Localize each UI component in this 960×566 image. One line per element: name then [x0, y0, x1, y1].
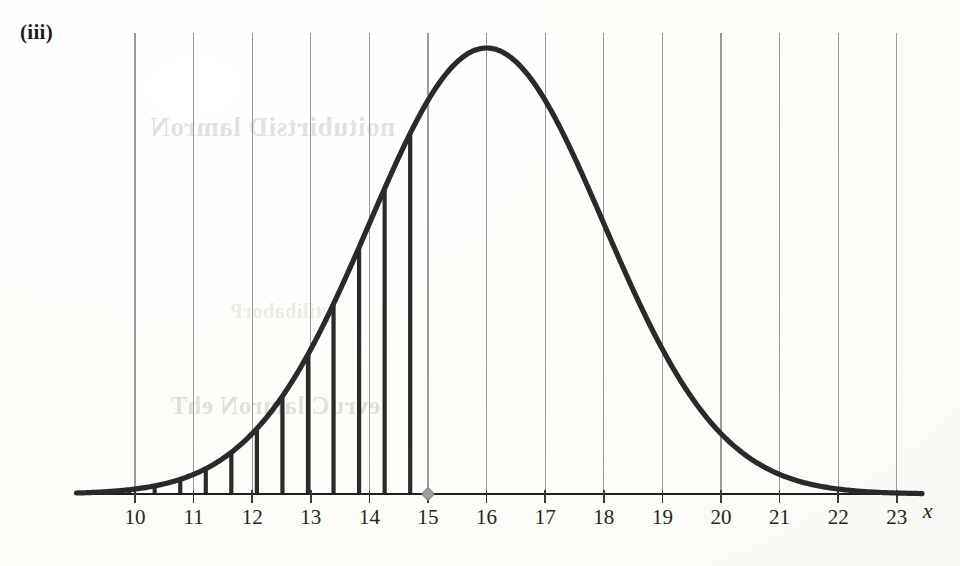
- normal-curve-path: [76, 48, 922, 494]
- panel-label: (iii): [20, 20, 53, 45]
- x-tick-label: 15: [418, 505, 439, 530]
- x-tick-label: 20: [711, 505, 732, 530]
- x-tick-label: 23: [886, 505, 907, 530]
- x-tick-label: 18: [593, 505, 614, 530]
- gridlines: [135, 33, 897, 494]
- x-tick-label: 22: [828, 505, 849, 530]
- axis-markers: [422, 488, 435, 501]
- x-tick-label: 14: [359, 505, 380, 530]
- x-axis-label: x: [923, 498, 933, 524]
- figure-page: noitubirtsiD lamroN evruC lamroN ehT yti…: [0, 0, 960, 566]
- x-tick-label: 11: [183, 505, 203, 530]
- normal-curve: [76, 48, 922, 494]
- diamond-marker: [422, 488, 435, 501]
- x-axis-ticks: [135, 490, 897, 503]
- x-tick-label: 17: [535, 505, 556, 530]
- x-tick-label: 16: [476, 505, 497, 530]
- x-tick-label: 10: [125, 505, 146, 530]
- shaded-region-hatching: [129, 133, 410, 494]
- x-tick-label: 12: [242, 505, 263, 530]
- x-tick-label: 21: [769, 505, 790, 530]
- normal-distribution-plot: [0, 0, 960, 566]
- x-tick-label: 13: [300, 505, 321, 530]
- x-tick-label: 19: [652, 505, 673, 530]
